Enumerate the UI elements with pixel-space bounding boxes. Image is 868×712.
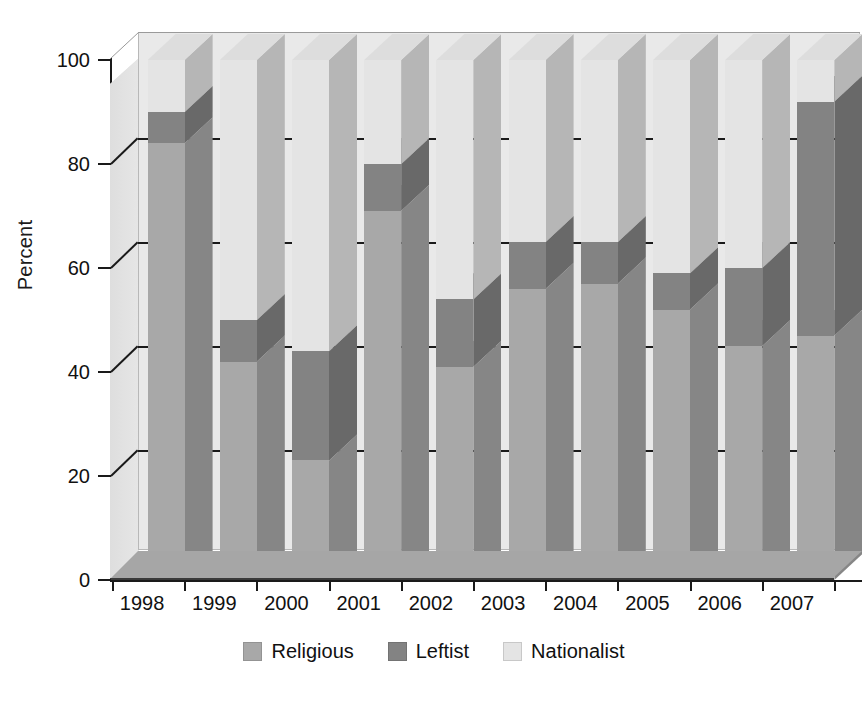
bar-group[interactable] (581, 60, 618, 580)
bar-segment[interactable] (364, 164, 401, 211)
chart-legend: ReligiousLeftistNationalist (0, 640, 868, 663)
bar-segment-face (436, 299, 473, 367)
plot-area (110, 32, 862, 580)
bar-segment-side (473, 34, 501, 299)
y-axis-tick-label: 40 (68, 362, 90, 382)
y-axis-tick-label: 80 (68, 154, 90, 174)
legend-item[interactable]: Nationalist (503, 640, 624, 663)
bar-segment[interactable] (797, 102, 834, 336)
y-axis-tick-labels: 100806040200 (38, 0, 90, 712)
bar-segment[interactable] (364, 211, 401, 580)
bar-segment[interactable] (220, 362, 257, 580)
bar-segment-side (618, 34, 646, 242)
y-axis-tick-mark (98, 163, 111, 165)
bar-segment-face (797, 336, 834, 580)
bar-segment-side (546, 34, 574, 242)
bar-segment-face (653, 273, 690, 309)
bar-segment-face (509, 60, 546, 242)
bar-segment-side (690, 284, 718, 580)
legend-item[interactable]: Leftist (388, 640, 469, 663)
bar-segment[interactable] (292, 351, 329, 460)
bar-segment[interactable] (509, 60, 546, 242)
bar-segment[interactable] (292, 60, 329, 351)
stacked-bar-chart: Percent 100806040200 ReligiousLeftistNat… (0, 0, 868, 712)
bar-group[interactable] (148, 60, 185, 580)
bar-segment-side (690, 34, 718, 273)
bar-segment-side (834, 310, 862, 580)
bar-group[interactable] (292, 60, 329, 580)
bar-segment[interactable] (509, 242, 546, 289)
bar-segment[interactable] (148, 143, 185, 580)
bar-segment-face (653, 310, 690, 580)
plot-floor (110, 551, 862, 579)
bar-group[interactable] (436, 60, 473, 580)
bar-segment-side (185, 117, 213, 580)
x-axis-tick-label: 2003 (481, 592, 526, 615)
bar-segment[interactable] (653, 60, 690, 273)
bar-group[interactable] (220, 60, 257, 580)
bar-segment[interactable] (725, 60, 762, 268)
legend-item[interactable]: Religious (243, 640, 353, 663)
bar-segment-face (220, 60, 257, 320)
bar-group[interactable] (509, 60, 546, 580)
bar-segment[interactable] (509, 289, 546, 580)
bar-segment[interactable] (797, 336, 834, 580)
bar-segment-side (329, 34, 357, 351)
legend-label: Leftist (416, 640, 469, 663)
x-axis-tick-mark (762, 580, 764, 591)
bar-segment-face (797, 102, 834, 336)
bar-segment[interactable] (581, 242, 618, 284)
bar-segment-face (436, 60, 473, 299)
y-axis-tick-label: 60 (68, 258, 90, 278)
bar-segment-face (509, 242, 546, 289)
bar-segment[interactable] (148, 60, 185, 112)
x-axis-tick-mark (401, 580, 403, 591)
bar-segment[interactable] (436, 299, 473, 367)
bar-segment-face (436, 367, 473, 580)
x-axis-tick-label: 1999 (192, 592, 237, 615)
legend-swatch-icon (243, 642, 262, 661)
bar-segment[interactable] (436, 367, 473, 580)
bar-group[interactable] (725, 60, 762, 580)
bar-segment-face (581, 242, 618, 284)
bar-segment[interactable] (653, 273, 690, 309)
bar-segment-side (834, 76, 862, 336)
bar-segment[interactable] (148, 112, 185, 143)
bar-segment-face (148, 143, 185, 580)
x-axis-tick-label: 2007 (770, 592, 815, 615)
bar-segment-face (364, 211, 401, 580)
bar-segment[interactable] (220, 60, 257, 320)
bar-segment[interactable] (220, 320, 257, 362)
x-axis-tick-mark (256, 580, 258, 591)
x-axis-tick-mark (690, 580, 692, 591)
bar-segment[interactable] (725, 268, 762, 346)
bar-group[interactable] (797, 60, 834, 580)
bar-segment-face (220, 362, 257, 580)
y-axis-title: Percent (14, 190, 37, 320)
bar-segment-side (257, 336, 285, 580)
y-axis-tick-mark (98, 59, 111, 61)
bar-segment-side (257, 34, 285, 320)
bar-segment-face (148, 112, 185, 143)
bar-segment[interactable] (436, 60, 473, 299)
bar-group[interactable] (364, 60, 401, 580)
x-axis-tick-mark (834, 580, 836, 591)
bar-segment-face (653, 60, 690, 273)
x-axis-tick-label: 2004 (553, 592, 598, 615)
bar-segment-face (364, 60, 401, 164)
x-axis-tick-label: 2005 (625, 592, 670, 615)
bar-segment-side (401, 185, 429, 580)
bar-segment[interactable] (581, 284, 618, 580)
x-axis-tick-mark (112, 580, 114, 591)
bar-segment[interactable] (725, 346, 762, 580)
bar-segment-face (364, 164, 401, 211)
bar-segment-face (292, 60, 329, 351)
x-axis-tick-mark (329, 580, 331, 591)
bar-group[interactable] (653, 60, 690, 580)
y-axis-tick-label: 20 (68, 466, 90, 486)
bar-segment[interactable] (797, 60, 834, 102)
bar-segment[interactable] (364, 60, 401, 164)
bar-segment[interactable] (581, 60, 618, 242)
bar-segment[interactable] (653, 310, 690, 580)
x-axis-line (110, 580, 862, 582)
